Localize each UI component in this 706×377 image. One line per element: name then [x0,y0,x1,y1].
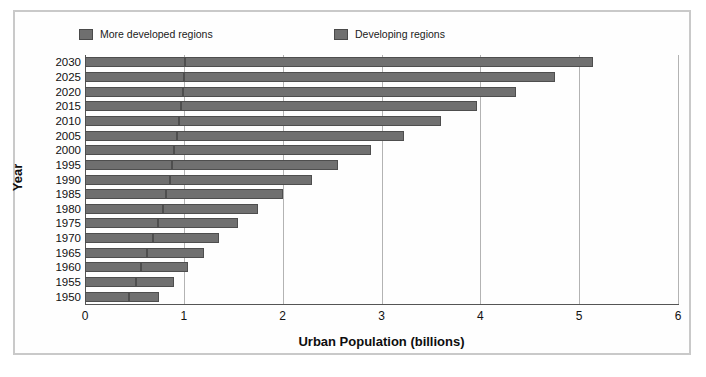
bar-segment-2025-more-developed [85,72,184,82]
bar-segment-1970-more-developed [85,233,153,243]
bar-segment-1950-developing [129,292,159,302]
y-tick-label-1970: 1970 [37,232,81,244]
x-axis-line [85,304,679,305]
x-axis-tick-labels: 0123456 [85,309,685,327]
y-tick-label-2030: 2030 [37,56,81,68]
y-tick-label-1975: 1975 [37,217,81,229]
y-tick-label-1965: 1965 [37,247,81,259]
y-axis-tick-labels: 2030202520202015201020052000199519901985… [33,55,81,304]
bar-segment-1990-developing [170,175,312,185]
chart-figure: More developed regions Developing region… [0,0,706,377]
bar-segment-2015-developing [181,101,478,111]
bar-segment-1965-developing [147,248,203,258]
y-tick-label-2000: 2000 [37,144,81,156]
y-tick-label-2015: 2015 [37,100,81,112]
bar-segment-1990-more-developed [85,175,170,185]
bar-segment-1995-more-developed [85,160,172,170]
bar-segment-1980-developing [163,204,258,214]
bar-segment-1960-developing [141,262,187,272]
legend-label-developing: Developing regions [355,28,445,40]
legend-swatch-icon-more-developed [79,29,93,40]
y-tick-label-1985: 1985 [37,188,81,200]
bar-segment-1960-more-developed [85,262,141,272]
y-tick-label-1950: 1950 [37,291,81,303]
bar-segment-1955-more-developed [85,277,136,287]
bar-segment-1970-developing [153,233,219,243]
y-axis-label: Year [10,148,25,208]
y-tick-label-2020: 2020 [37,86,81,98]
bar-segment-1995-developing [172,160,338,170]
x-tick-label-5: 5 [564,309,594,323]
y-tick-label-1980: 1980 [37,203,81,215]
chart-legend: More developed regions Developing region… [0,0,706,50]
legend-swatch-icon-developing [334,29,348,40]
gridline-x-6 [678,55,679,304]
plot-area [85,55,678,304]
bar-segment-2020-developing [183,87,516,97]
y-tick-label-1990: 1990 [37,174,81,186]
bar-segment-1975-developing [158,218,238,228]
x-tick-label-6: 6 [663,309,693,323]
bar-segment-2000-more-developed [85,145,174,155]
bar-segment-1980-more-developed [85,204,163,214]
bar-segment-1965-more-developed [85,248,147,258]
bar-segment-2025-developing [184,72,556,82]
y-tick-label-2005: 2005 [37,130,81,142]
x-tick-label-4: 4 [465,309,495,323]
bar-segment-2010-developing [179,116,441,126]
bar-segment-2030-more-developed [85,57,185,67]
bar-segment-1985-developing [166,189,283,199]
bar-segment-1975-more-developed [85,218,158,228]
bar-segment-1950-more-developed [85,292,129,302]
x-tick-label-1: 1 [169,309,199,323]
bar-segment-1985-more-developed [85,189,166,199]
y-tick-label-2025: 2025 [37,71,81,83]
bar-segment-1955-developing [136,277,174,287]
y-tick-label-2010: 2010 [37,115,81,127]
bar-segment-2020-more-developed [85,87,183,97]
y-tick-label-1955: 1955 [37,276,81,288]
x-tick-label-2: 2 [268,309,298,323]
x-tick-label-0: 0 [70,309,100,323]
x-tick-label-3: 3 [367,309,397,323]
bar-segment-2005-developing [177,131,404,141]
bar-segment-2010-more-developed [85,116,179,126]
y-tick-label-1960: 1960 [37,261,81,273]
legend-item-more-developed-regions: More developed regions [79,27,213,41]
legend-item-developing-regions: Developing regions [334,27,445,41]
bar-segment-2015-more-developed [85,101,181,111]
bar-segment-2030-developing [185,57,593,67]
legend-label-more-developed: More developed regions [100,28,213,40]
x-axis-label: Urban Population (billions) [85,334,678,349]
gridline-x-5 [579,55,580,304]
bar-segment-2005-more-developed [85,131,177,141]
bar-segment-2000-developing [174,145,371,155]
y-tick-label-1995: 1995 [37,159,81,171]
